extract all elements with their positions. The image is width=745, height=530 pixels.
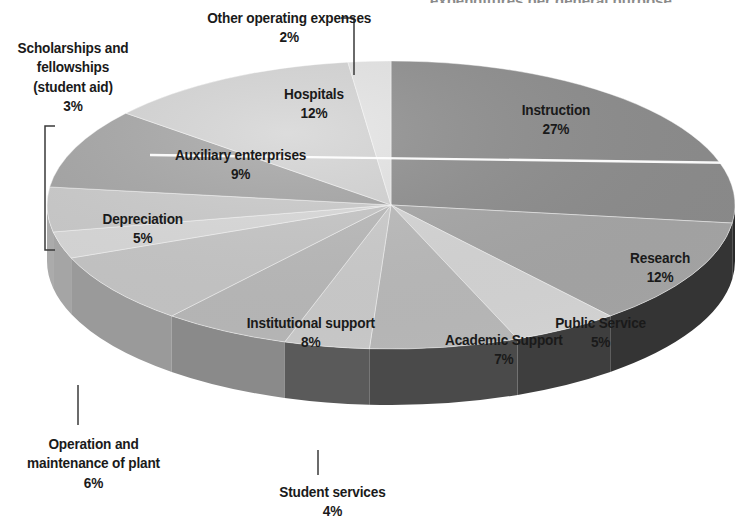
callout-label-line: Scholarships and [18, 38, 129, 57]
callout-label-percent: 2% [207, 27, 371, 46]
callout-label-operation-and-maintenance-of-plant: Operation andmaintenance of plant6% [27, 434, 160, 492]
slice-label-percent: 8% [247, 332, 375, 351]
slice-label-text: Academic Support [445, 331, 563, 348]
slice-label-percent: 12% [630, 267, 690, 286]
callout-label-line: maintenance of plant [27, 453, 160, 472]
slice-label-hospitals: Hospitals12% [284, 84, 344, 123]
slice-label-percent: 27% [522, 119, 591, 138]
callout-label-percent: 6% [27, 473, 160, 492]
slice-label-percent: 12% [284, 103, 344, 122]
slice-label-percent: 5% [555, 332, 646, 351]
slice-label-depreciation: Depreciation5% [102, 209, 183, 248]
callout-label-percent: 3% [18, 96, 129, 115]
slice-label-text: Auxiliary enterprises [175, 146, 306, 163]
pie-sheen-overlay [47, 61, 735, 349]
callout-label-line: fellowships [18, 57, 129, 76]
pie-chart-figure: expenditures per general purpose [0, 0, 745, 530]
slice-label-percent: 5% [102, 228, 183, 247]
slice-label-text: Public Service [555, 314, 646, 331]
callout-label-line: Other operating expenses [207, 8, 371, 27]
slice-label-public-service: Public Service5% [555, 313, 646, 352]
slice-label-text: Instruction [522, 101, 591, 118]
slice-label-auxiliary-enterprises: Auxiliary enterprises9% [175, 145, 306, 184]
callout-label-scholarships-and-fellowships: Scholarships andfellowships(student aid)… [18, 38, 129, 116]
callout-label-line: Student services [279, 482, 385, 501]
slice-label-text: Hospitals [284, 85, 344, 102]
slice-label-percent: 7% [445, 349, 563, 368]
callout-label-line: (student aid) [18, 77, 129, 96]
slice-label-text: Depreciation [102, 210, 183, 227]
callout-label-percent: 4% [279, 501, 385, 520]
slice-label-instruction: Instruction27% [522, 100, 591, 139]
slice-label-research: Research12% [630, 248, 690, 287]
slice-label-percent: 9% [175, 164, 306, 183]
callout-label-other-operating-expenses: Other operating expenses2% [207, 8, 371, 47]
callout-label-student-services: Student services4% [279, 482, 385, 521]
slice-label-academic-support: Academic Support7% [445, 330, 563, 369]
slice-label-text: Institutional support [247, 314, 375, 331]
callout-label-line: Operation and [27, 434, 160, 453]
slice-label-text: Research [630, 249, 690, 266]
slice-label-institutional-support: Institutional support8% [247, 313, 375, 352]
